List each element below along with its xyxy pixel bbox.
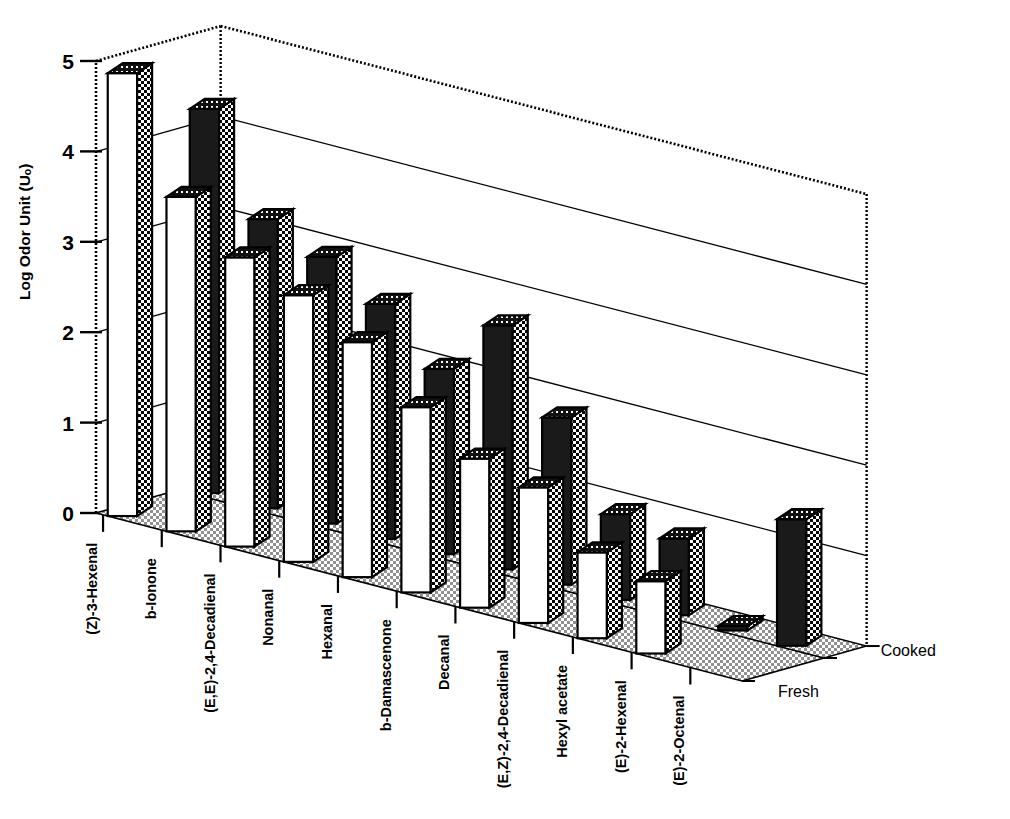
bar-cooked-side-face <box>689 528 704 615</box>
bar-fresh <box>166 187 210 531</box>
category-label: Nonanal <box>260 589 276 646</box>
bar-fresh-side-face <box>548 477 563 623</box>
category-label: (E)-2-Octenal <box>671 696 687 786</box>
category-label: Decanal <box>436 634 452 690</box>
y-axis-title-group: Log Odor Unit (Uₒ) <box>16 164 33 300</box>
series-label: Fresh <box>778 683 819 700</box>
y-tick-label: 0 <box>62 502 74 525</box>
bar-fresh <box>225 247 269 546</box>
y-tick-label: 5 <box>62 50 74 73</box>
category-label: b-Ionone <box>143 558 159 619</box>
bar-fresh <box>401 397 445 592</box>
y-tick-label: 4 <box>62 140 74 163</box>
bar-fresh-front-face <box>460 459 489 608</box>
bar-fresh-front-face <box>108 73 137 516</box>
bar-fresh-side-face <box>313 285 328 562</box>
bar-fresh <box>460 449 504 608</box>
category-label: b-Damascenone <box>378 619 394 731</box>
y-axis-title: Log Odor Unit (Uₒ) <box>16 164 33 300</box>
series-label: Cooked <box>881 642 936 659</box>
y-tick-label: 3 <box>62 231 74 254</box>
bar-fresh-side-face <box>255 247 270 546</box>
bar-fresh-front-face <box>578 552 607 638</box>
bar-fresh <box>578 542 622 638</box>
category-label: (E,E)-2,4-Decadienal <box>202 573 218 712</box>
bar-fresh-front-face <box>166 197 195 531</box>
chart-figure: Log Odor Unit (Uₒ) 543210 (Z)-3-Hexenalb… <box>0 0 1010 819</box>
bar-fresh-side-face <box>489 449 504 608</box>
y-tick-label: 1 <box>62 412 74 435</box>
category-label: (E,Z)-2,4-Decadienal <box>495 650 511 789</box>
frame-top-back <box>221 26 867 194</box>
bar-fresh-side-face <box>431 397 446 592</box>
bar-fresh <box>284 285 328 562</box>
bar-fresh <box>519 477 563 623</box>
bar-fresh <box>343 332 387 577</box>
bar-fresh-front-face <box>284 295 313 562</box>
bar-fresh-front-face <box>343 342 372 577</box>
bar-group <box>108 63 822 653</box>
bar-cooked-side-face <box>806 509 821 646</box>
y-tick-label: 2 <box>62 321 74 344</box>
bar-fresh-side-face <box>666 571 681 653</box>
bar-fresh-side-face <box>607 542 622 638</box>
frame-top-left-ridge <box>96 26 221 61</box>
bar-fresh-front-face <box>225 257 254 546</box>
bar-fresh-front-face <box>519 487 548 623</box>
bar-fresh-side-face <box>137 63 152 516</box>
bar-fresh-front-face <box>401 407 430 592</box>
category-label: Hexanal <box>319 604 335 660</box>
three-d-bar-chart: Log Odor Unit (Uₒ) 543210 (Z)-3-Hexenalb… <box>0 0 1010 819</box>
bar-fresh-side-face <box>372 332 387 577</box>
bar-fresh-front-face <box>636 581 665 653</box>
bar-fresh-side-face <box>196 187 211 531</box>
category-label: (Z)-3-Hexenal <box>84 543 100 635</box>
category-label: (E)-2-Hexenal <box>613 680 629 773</box>
bar-cooked <box>777 509 821 646</box>
bar-cooked-front-face <box>777 519 806 646</box>
bar-fresh <box>108 63 152 516</box>
bar-fresh <box>636 571 680 653</box>
category-label: Hexyl acetate <box>554 665 570 758</box>
